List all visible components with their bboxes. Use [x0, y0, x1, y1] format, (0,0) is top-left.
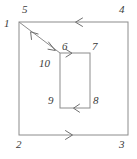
- label-2: 2: [16, 139, 22, 150]
- label-4: 4: [119, 4, 125, 15]
- label-8: 8: [93, 95, 99, 106]
- diagonal-arrow-down-right-icon: [48, 42, 55, 51]
- label-3: 3: [119, 139, 125, 150]
- contour-diagram-canvas: [0, 0, 137, 159]
- outer-square-path: [19, 22, 128, 135]
- label-9: 9: [48, 95, 54, 106]
- figure-container: 1 5 4 2 3 6 7 10 9 8: [0, 0, 137, 159]
- label-6: 6: [62, 41, 68, 52]
- label-5: 5: [22, 4, 28, 15]
- label-7: 7: [92, 41, 98, 52]
- label-10: 10: [39, 58, 50, 69]
- inner-rectangle-path: [60, 53, 90, 108]
- label-1: 1: [4, 18, 10, 29]
